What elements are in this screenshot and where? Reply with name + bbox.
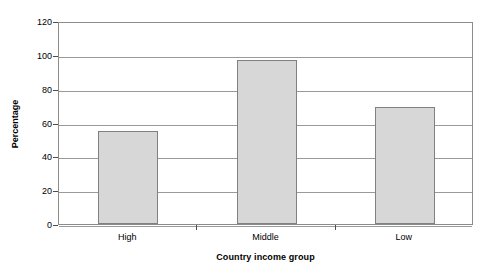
bar-high bbox=[98, 131, 158, 224]
y-tick-mark bbox=[53, 225, 58, 226]
x-tick-label-high: High bbox=[58, 232, 196, 243]
y-axis-tick-marks bbox=[0, 22, 58, 225]
gridline-100 bbox=[59, 57, 472, 58]
bar-low bbox=[375, 107, 435, 224]
bar-chart: Percentage 020406080100120 HighMiddleLow… bbox=[0, 0, 486, 277]
x-tick-mark bbox=[335, 225, 336, 230]
x-tick-label-middle: Middle bbox=[196, 232, 334, 243]
x-axis-title: Country income group bbox=[58, 252, 473, 262]
plot-area bbox=[58, 22, 473, 225]
bar-middle bbox=[237, 60, 297, 224]
gridline-0 bbox=[59, 226, 472, 227]
x-tick-label-low: Low bbox=[335, 232, 473, 243]
x-tick-mark bbox=[196, 225, 197, 230]
